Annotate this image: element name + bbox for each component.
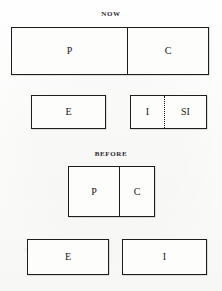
section-title-before: BEFORE bbox=[0, 151, 222, 158]
now-cell-c: C bbox=[127, 28, 208, 74]
now-block-p-c: P C bbox=[11, 27, 209, 75]
now-cell-i: I bbox=[131, 96, 164, 128]
now-cell-i-label: I bbox=[146, 107, 149, 117]
now-cell-si-label: SI bbox=[181, 107, 190, 117]
now-block-i-si: I SI bbox=[130, 95, 207, 129]
diagram-canvas: NOW P C E I SI BEFORE P C bbox=[0, 0, 222, 291]
now-cell-e-label: E bbox=[65, 107, 71, 117]
section-title-now: NOW bbox=[0, 11, 222, 18]
before-cell-i-label: I bbox=[163, 252, 166, 262]
before-cell-i: I bbox=[123, 240, 206, 274]
now-cell-p: P bbox=[12, 28, 127, 74]
before-block-e: E bbox=[27, 239, 109, 275]
before-cell-p: P bbox=[69, 167, 119, 216]
before-cell-c-label: C bbox=[134, 187, 141, 197]
before-block-p-c: P C bbox=[68, 166, 155, 217]
before-cell-p-label: P bbox=[91, 187, 97, 197]
now-cell-p-label: P bbox=[67, 46, 73, 56]
now-block-e: E bbox=[31, 95, 106, 129]
now-cell-si: SI bbox=[164, 96, 206, 128]
now-cell-e: E bbox=[32, 96, 105, 128]
before-cell-e-label: E bbox=[65, 252, 71, 262]
before-block-i: I bbox=[122, 239, 207, 275]
now-cell-c-label: C bbox=[165, 46, 172, 56]
before-cell-c: C bbox=[119, 167, 154, 216]
before-cell-e: E bbox=[28, 240, 108, 274]
